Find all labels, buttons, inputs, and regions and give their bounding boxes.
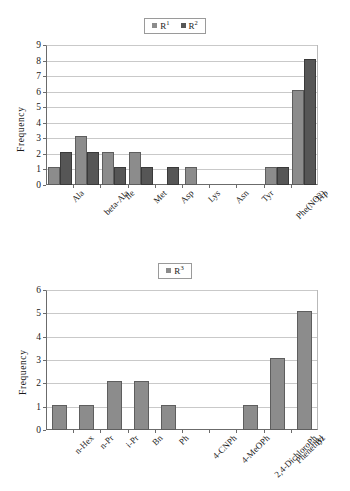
bar xyxy=(129,152,141,185)
chart-r1-r2: R1 R2 Frequency 0123456789 Alabeta-AlaIl… xyxy=(0,0,350,246)
legend-item-r2: R2 xyxy=(181,20,198,31)
x-axis-tick-label: Ala xyxy=(69,188,85,204)
bar xyxy=(75,136,87,185)
bar xyxy=(243,405,258,430)
bar xyxy=(167,167,179,185)
bar-group xyxy=(155,45,182,185)
legend-item-r1: R1 xyxy=(152,20,169,31)
legend-swatch-r2 xyxy=(181,23,186,28)
bar-group xyxy=(182,290,209,430)
bar-group xyxy=(46,45,73,185)
x-axis-tick-label: Met xyxy=(151,188,168,205)
bar xyxy=(107,381,122,430)
bar-group xyxy=(128,45,155,185)
legend-label-r3: R3 xyxy=(174,265,183,276)
x-axis-tick-label: n-Pr xyxy=(97,433,115,451)
bar-group xyxy=(155,290,182,430)
bar-group xyxy=(264,290,291,430)
bar xyxy=(277,167,289,185)
legend-box: R1 R2 xyxy=(144,18,206,34)
bar-group xyxy=(73,45,100,185)
x-axis-labels: Alabeta-AlaIleMetAspLysAsnTyrPhe(NO2)Trp xyxy=(46,188,318,246)
figure-container: R1 R2 Frequency 0123456789 Alabeta-AlaIl… xyxy=(0,0,350,491)
legend-label-r2: R2 xyxy=(189,20,198,31)
bar xyxy=(185,167,197,185)
bar-group xyxy=(209,45,236,185)
bar xyxy=(161,405,176,430)
bar-group xyxy=(209,290,236,430)
bar-group xyxy=(128,290,155,430)
plot-area: 0123456 xyxy=(46,290,318,430)
bar-group xyxy=(100,45,127,185)
bar-group xyxy=(264,45,291,185)
legend-swatch-r3 xyxy=(166,268,171,273)
bar-group xyxy=(100,290,127,430)
bar xyxy=(297,311,312,430)
x-axis-tick-label: 4-MeOPh xyxy=(239,433,271,465)
bar xyxy=(79,405,94,430)
x-axis-tick-label: 4-CNPh xyxy=(210,433,238,461)
bar-series-container xyxy=(46,45,318,185)
bar-group xyxy=(236,45,263,185)
y-axis-label: Frequency xyxy=(18,350,28,396)
x-axis-labels: n-Hexn-Pri-PrBnPh4-CNPh4-MeOPh2,4-Dichlo… xyxy=(46,433,318,491)
x-axis-tick-label: Bn xyxy=(150,433,165,448)
bar xyxy=(292,90,304,185)
bar xyxy=(141,167,153,185)
x-axis-tick-label: Asp xyxy=(179,188,196,205)
x-axis-tick-label: i-Pr xyxy=(124,433,141,450)
bar xyxy=(270,358,285,430)
legend-label-r1: R1 xyxy=(160,20,169,31)
bar xyxy=(48,167,60,185)
bar-group xyxy=(73,290,100,430)
bar-group xyxy=(182,45,209,185)
chart-legend: R1 R2 xyxy=(0,18,350,34)
bar-group xyxy=(291,45,318,185)
chart-legend: R3 xyxy=(0,263,350,279)
x-axis-tick-label: n-Hex xyxy=(72,433,95,456)
bar xyxy=(134,381,149,430)
bar-group xyxy=(46,290,73,430)
bar-group xyxy=(236,290,263,430)
bar xyxy=(52,405,67,430)
plot-area: 0123456789 xyxy=(46,45,318,185)
bar xyxy=(114,167,126,185)
y-axis-label: Frequency xyxy=(16,107,26,153)
bar-series-container xyxy=(46,290,318,430)
legend-swatch-r1 xyxy=(152,23,157,28)
bar xyxy=(102,152,114,185)
bar xyxy=(87,152,99,185)
bar xyxy=(304,59,316,185)
bar-group xyxy=(291,290,318,430)
bar xyxy=(60,152,72,185)
legend-item-r3: R3 xyxy=(166,265,183,276)
chart-r3: R3 Frequency 0123456 n-Hexn-Pri-PrBnPh4-… xyxy=(0,245,350,491)
x-axis-tick-label: Ph xyxy=(177,433,191,447)
legend-box: R3 xyxy=(158,263,191,279)
x-axis-tick-label: Tyr xyxy=(260,188,276,204)
x-axis-tick-label: Lys xyxy=(205,188,221,204)
bar xyxy=(265,167,277,185)
x-axis-tick-label: Asn xyxy=(233,188,250,205)
